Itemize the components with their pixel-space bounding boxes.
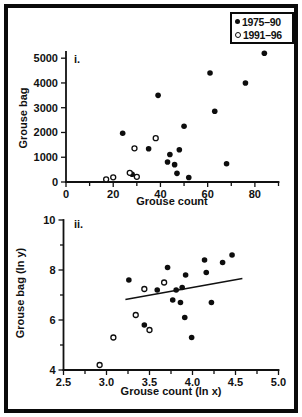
data-point-filled <box>167 152 173 158</box>
legend-label: 1991–96 <box>243 29 282 41</box>
data-point-open <box>132 146 137 151</box>
data-point-filled <box>229 252 235 258</box>
data-point-open <box>127 170 132 175</box>
panel-label-i: i. <box>74 53 80 65</box>
panel-label-ii: ii. <box>74 218 83 230</box>
data-point-open <box>142 287 147 292</box>
data-point-filled <box>183 272 189 278</box>
data-point-filled <box>182 315 188 321</box>
data-point-filled <box>172 162 178 168</box>
y-tick-label: 0 <box>52 176 58 188</box>
bottom-x-axis-title: Grouse count (ln x) <box>63 385 279 397</box>
y-tick-label: 1000 <box>34 151 58 163</box>
data-point-filled <box>203 270 209 276</box>
legend-item-1975-90: 1975–90 <box>235 15 290 28</box>
data-point-filled <box>181 123 187 129</box>
data-point-filled <box>209 300 215 306</box>
y-tick-label: 10 <box>43 214 55 226</box>
data-point-open <box>111 335 116 340</box>
data-point-filled <box>173 287 179 293</box>
data-point-filled <box>154 287 160 293</box>
data-point-filled <box>207 70 213 76</box>
data-point-filled <box>155 93 161 99</box>
legend-label: 1975–90 <box>242 16 281 28</box>
data-point-filled <box>177 147 183 153</box>
figure: 020406080010002000300040005000 2.53.03.5… <box>0 0 302 417</box>
data-point-filled <box>224 161 230 167</box>
data-point-filled <box>174 171 180 177</box>
data-point-filled <box>220 260 226 266</box>
filled-circle-icon <box>235 19 240 24</box>
data-point-filled <box>212 108 218 114</box>
data-point-open <box>162 280 167 285</box>
data-point-filled <box>186 175 192 181</box>
data-point-open <box>153 136 158 141</box>
data-point-filled <box>142 322 148 328</box>
data-point-filled <box>189 335 195 341</box>
data-point-open <box>104 177 109 182</box>
data-point-filled <box>165 159 171 165</box>
data-point-open <box>133 313 138 318</box>
y-tick-label: 5000 <box>34 52 58 64</box>
data-point-filled <box>262 50 268 56</box>
data-point-open <box>97 363 102 368</box>
y-tick-label: 6 <box>49 314 55 326</box>
y-tick-label: 4000 <box>34 77 58 89</box>
legend: 1975–90 1991–96 <box>230 12 294 44</box>
legend-item-1991-96: 1991–96 <box>235 28 290 41</box>
data-point-filled <box>120 130 126 136</box>
data-point-filled <box>165 265 171 271</box>
data-point-filled <box>126 277 132 283</box>
bottom-y-axis-title: Grouse bag (ln y) <box>14 213 26 373</box>
top-y-axis-title: Grouse bag <box>17 48 29 188</box>
open-circle-icon <box>235 32 241 38</box>
data-point-filled <box>243 80 249 86</box>
data-point-open <box>147 328 152 333</box>
y-tick-label: 8 <box>49 264 55 276</box>
data-point-filled <box>179 285 185 291</box>
y-tick-label: 3000 <box>34 102 58 114</box>
top-x-axis-title: Grouse count <box>66 195 278 207</box>
data-point-open <box>111 175 116 180</box>
data-point-filled <box>146 146 152 152</box>
y-tick-label: 4 <box>49 364 56 376</box>
data-point-open <box>134 174 139 179</box>
data-point-filled <box>178 300 184 306</box>
y-tick-label: 2000 <box>34 126 58 138</box>
data-point-filled <box>202 257 208 263</box>
data-point-filled <box>170 297 176 303</box>
